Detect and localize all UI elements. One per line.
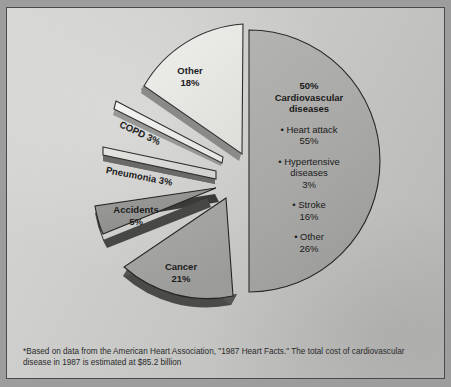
breakdown-value: 3% <box>249 179 369 191</box>
breakdown-name: Heart attack <box>249 124 369 136</box>
pie-chart-svg <box>7 8 446 338</box>
cardiovascular-label-block[interactable]: 50% Cardiovascular diseases Heart attack… <box>249 80 369 263</box>
slice-label-cancer-pct: 21% <box>151 273 211 285</box>
breakdown-item-other: Other 26% <box>249 231 369 254</box>
slice-label-cancer[interactable]: Cancer 21% <box>151 261 211 284</box>
cardiovascular-title-line1: Cardiovascular <box>275 92 344 103</box>
slide-image: Other 18% COPD 3% Pneumonia 3% Accidents… <box>0 0 451 387</box>
cardiovascular-percent: 50% <box>299 80 318 91</box>
cardiovascular-title: 50% Cardiovascular diseases <box>249 80 369 115</box>
footnote: *Based on data from the American Heart A… <box>23 346 427 368</box>
breakdown-name: Stroke <box>249 199 369 211</box>
breakdown-item-hypertensive-diseases: Hypertensive diseases 3% <box>249 156 369 191</box>
slice-label-cancer-name: Cancer <box>165 261 197 272</box>
cardiovascular-breakdown-list: Heart attack 55% Hypertensive diseases 3… <box>249 124 369 255</box>
breakdown-item-stroke: Stroke 16% <box>249 199 369 222</box>
slice-label-accidents[interactable]: Accidents 5% <box>103 204 169 227</box>
slice-label-accidents-name: Accidents <box>113 204 158 215</box>
pie-chart: Other 18% COPD 3% Pneumonia 3% Accidents… <box>7 8 446 338</box>
slide-panel: Other 18% COPD 3% Pneumonia 3% Accidents… <box>6 7 445 379</box>
breakdown-name: Hypertensive <box>249 156 369 168</box>
slice-label-other-pct: 18% <box>155 77 225 89</box>
breakdown-value: 55% <box>249 135 369 147</box>
slice-label-accidents-pct: 5% <box>103 216 169 228</box>
breakdown-value: 26% <box>249 243 369 255</box>
breakdown-value: 16% <box>249 211 369 223</box>
cardiovascular-title-line2: diseases <box>289 103 329 114</box>
breakdown-name: Other <box>249 231 369 243</box>
breakdown-item-heart-attack: Heart attack 55% <box>249 124 369 147</box>
slice-label-other[interactable]: Other 18% <box>155 65 225 88</box>
breakdown-name-line2: diseases <box>249 167 369 179</box>
slice-label-other-name: Other <box>177 65 202 76</box>
